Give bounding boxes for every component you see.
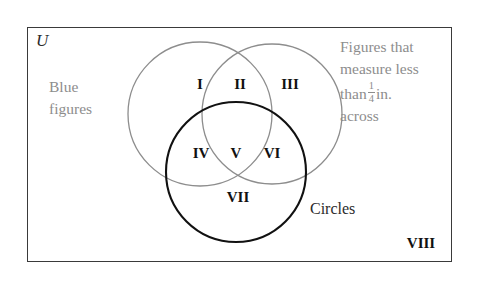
region-label-IV: IV — [193, 145, 210, 162]
left-set-label-line1: Blue — [49, 78, 78, 95]
universe-symbol: U — [36, 31, 48, 50]
region-label-II: II — [234, 76, 246, 93]
region-label-I: I — [197, 76, 203, 93]
left-set-label: Blue figures — [49, 76, 92, 121]
region-label-VII: VII — [227, 189, 250, 206]
region-label-VIII: VIII — [407, 235, 435, 252]
right-set-label-line4: across — [340, 107, 379, 124]
region-label-III: III — [281, 76, 299, 93]
right-set-label-line1: Figures that — [340, 38, 414, 55]
fraction-numerator: 1 — [368, 81, 375, 92]
left-set-label-line2: figures — [49, 100, 92, 117]
right-set-label-line3-suffix: in. — [376, 85, 392, 102]
bottom-set-circle — [166, 102, 306, 242]
region-label-V: V — [231, 145, 242, 162]
fraction-denominator: 4 — [368, 94, 375, 105]
right-set-label: Figures that measure less than14in. acro… — [340, 36, 419, 128]
region-label-VI: VI — [264, 145, 281, 162]
right-set-label-line2: measure less — [340, 60, 419, 77]
left-set-circle — [128, 42, 272, 186]
one-quarter-fraction: 14 — [368, 81, 375, 104]
right-set-label-line3-prefix: than — [340, 85, 367, 102]
venn-diagram: U Blue figures Figures that measure less… — [0, 0, 477, 281]
bottom-set-label: Circles — [310, 200, 355, 218]
